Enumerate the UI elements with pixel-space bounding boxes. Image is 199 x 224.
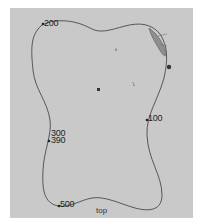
point-marker [167,65,171,69]
label-390: 390 [51,136,65,145]
artifact-fin [158,34,167,36]
label-200: 200 [44,19,58,28]
tooth-outline-diagram [0,0,199,224]
label-500: 500 [60,200,74,209]
label-100: 100 [148,114,162,123]
tick-mark [133,82,135,86]
point-marker [48,140,51,143]
tick-mark [115,48,117,51]
caption-top: top [96,206,107,215]
outline-path [32,21,167,210]
center-marker [97,88,100,91]
